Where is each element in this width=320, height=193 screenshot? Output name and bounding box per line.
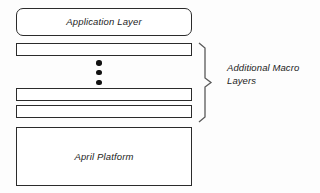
macro-layer-bar-1 bbox=[16, 43, 192, 56]
additional-macro-layers-label-line-2: Layers bbox=[227, 75, 319, 88]
ellipsis-dot bbox=[96, 80, 102, 86]
macro-layer-bar-3 bbox=[16, 105, 192, 118]
ellipsis-dot bbox=[96, 60, 102, 66]
april-platform-label: April Platform bbox=[74, 152, 133, 162]
additional-macro-layers-label-line-1: Additional Macro bbox=[227, 62, 319, 75]
april-platform-box: April Platform bbox=[16, 127, 192, 186]
application-layer-label: Application Layer bbox=[66, 17, 141, 27]
architecture-diagram: Application Layer April Platform Additio… bbox=[0, 0, 320, 193]
application-layer-box: Application Layer bbox=[16, 8, 192, 36]
additional-macro-layers-label: Additional Macro Layers bbox=[227, 62, 319, 87]
vertical-ellipsis-icon bbox=[93, 60, 105, 85]
curly-brace-svg bbox=[196, 38, 218, 128]
curly-brace-right-icon bbox=[196, 38, 218, 128]
macro-layer-bar-2 bbox=[16, 88, 192, 101]
ellipsis-dot bbox=[96, 70, 102, 76]
